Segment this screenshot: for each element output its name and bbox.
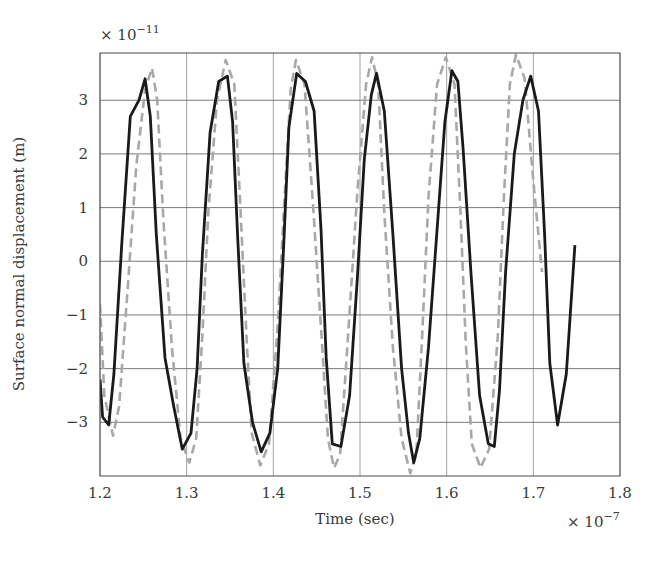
- y-tick-label: −2: [66, 360, 88, 378]
- x-tick-label: 1.3: [175, 484, 199, 502]
- x-tick-label: 1.6: [435, 484, 459, 502]
- x-tick-label: 1.4: [261, 484, 285, 502]
- y-tick-label: −1: [66, 306, 88, 324]
- y-tick-label: −3: [66, 413, 88, 431]
- y-tick-label: 2: [78, 145, 88, 163]
- x-tick-label: 1.8: [608, 484, 632, 502]
- y-tick-label: 3: [78, 91, 88, 109]
- dashed-series-line: [100, 55, 542, 474]
- x-tick-label: 1.2: [88, 484, 112, 502]
- y-axis-multiplier: × 10−11: [100, 23, 160, 44]
- x-axis-ticks: 1.21.31.41.51.61.71.8: [88, 484, 632, 502]
- x-tick-label: 1.7: [521, 484, 545, 502]
- y-axis-ticks: −3−2−10123: [66, 91, 88, 431]
- x-axis-multiplier: × 10−7: [567, 510, 620, 531]
- y-axis-label: Surface normal displacement (m): [10, 137, 28, 391]
- y-tick-label: 1: [78, 199, 88, 217]
- chart-svg: 1.21.31.41.51.61.71.8 −3−2−10123 × 10−11…: [0, 0, 663, 565]
- solid-series-line: [100, 71, 575, 463]
- x-axis-label: Time (sec): [315, 510, 394, 528]
- y-tick-label: 0: [78, 252, 88, 270]
- data-series: [100, 55, 575, 474]
- x-tick-label: 1.5: [348, 484, 372, 502]
